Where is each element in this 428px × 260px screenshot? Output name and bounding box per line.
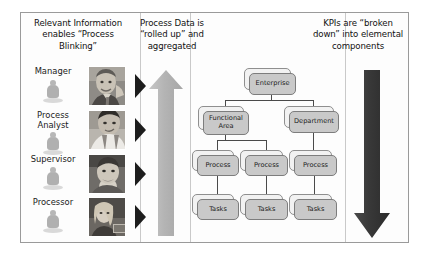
- role-label-processor: Processor: [22, 198, 84, 208]
- role-label-supervisor: Supervisor: [22, 155, 84, 165]
- tree-node-label: Enterprise: [254, 80, 292, 88]
- heading-kpis-broken-down: KPIs are “broken down” into elemental co…: [310, 18, 406, 52]
- role-row-processor: Processor: [22, 197, 132, 239]
- person-figurine-icon: [42, 210, 64, 234]
- card-front: Tasks: [197, 199, 239, 220]
- tree-node-tasks-3[interactable]: Tasks: [289, 194, 330, 213]
- chevron-right-icon: [134, 74, 147, 98]
- roles-list: Manager: [22, 66, 132, 240]
- role-row-process-analyst: Process Analyst: [22, 110, 132, 152]
- tree-node-functional-area[interactable]: Functional Area: [198, 106, 242, 128]
- supervisor-photo: [88, 154, 126, 194]
- tree-node-process-2[interactable]: Process: [240, 150, 281, 169]
- card-front: Process: [197, 155, 239, 176]
- chevron-right-icon: [134, 118, 147, 142]
- up-arrow-rolled-up: [148, 70, 184, 236]
- tree-node-label: Process: [252, 162, 281, 170]
- processor-photo: [88, 197, 126, 237]
- process-analyst-photo: [88, 110, 126, 150]
- person-figurine-icon: [42, 132, 64, 156]
- tree-node-tasks-1[interactable]: Tasks: [192, 194, 232, 213]
- tree-node-tasks-2[interactable]: Tasks: [240, 194, 281, 213]
- hierarchy-tree: Enterprise Functional Area Department Pr…: [192, 66, 340, 242]
- tree-node-label: Tasks: [305, 206, 327, 214]
- chevron-right-icon: [134, 162, 147, 186]
- tree-node-label: Process: [203, 162, 232, 170]
- card-front: Tasks: [245, 199, 288, 220]
- diagram-canvas: Relevant Information enables “Process Bl…: [0, 0, 428, 260]
- tree-node-label: Functional Area: [204, 115, 248, 130]
- card-front: Functional Area: [203, 111, 249, 135]
- card-front: Tasks: [294, 199, 337, 220]
- manager-photo: [88, 66, 126, 106]
- person-figurine-icon: [42, 167, 64, 191]
- chevron-right-icon: [134, 205, 147, 229]
- role-label-manager: Manager: [22, 67, 84, 77]
- card-front: Enterprise: [249, 73, 296, 95]
- tree-node-enterprise[interactable]: Enterprise: [244, 68, 289, 88]
- role-row-supervisor: Supervisor: [22, 154, 132, 196]
- heading-process-data-rolled-up: Process Data is “rolled up” and aggregat…: [130, 18, 214, 52]
- tree-node-label: Department: [292, 118, 336, 126]
- tree-node-label: Tasks: [207, 206, 229, 214]
- person-figurine-icon: [42, 80, 64, 104]
- role-label-process-analyst: Process Analyst: [22, 111, 84, 131]
- card-front: Process: [245, 155, 288, 176]
- card-front: Department: [289, 111, 339, 133]
- role-row-manager: Manager: [22, 66, 132, 108]
- tree-node-label: Tasks: [256, 206, 278, 214]
- card-front: Process: [294, 155, 337, 176]
- tree-node-label: Process: [301, 162, 330, 170]
- tree-node-process-1[interactable]: Process: [192, 150, 232, 169]
- heading-relevant-information: Relevant Information enables “Process Bl…: [24, 18, 132, 52]
- tree-node-process-3[interactable]: Process: [289, 150, 330, 169]
- tree-node-department[interactable]: Department: [284, 106, 332, 126]
- down-arrow-broken-down: [352, 70, 392, 238]
